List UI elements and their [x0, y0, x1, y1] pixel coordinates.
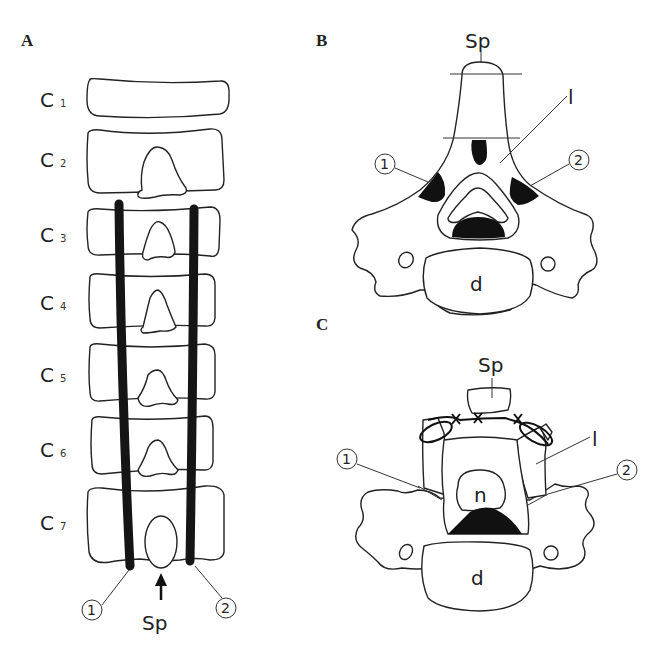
marker-2: 2	[216, 598, 236, 618]
sp-label-b: Sp	[465, 29, 490, 53]
label-c6: C6	[40, 438, 66, 462]
label-c1: C1	[40, 88, 66, 112]
label-c5: C5	[40, 363, 66, 387]
svg-text:2: 2	[60, 158, 66, 169]
l-label-c: l	[592, 427, 598, 451]
svg-text:C: C	[40, 363, 54, 387]
svg-text:2: 2	[622, 462, 631, 478]
d-label-c: d	[471, 566, 484, 590]
n-label-c: n	[474, 483, 487, 507]
svg-text:6: 6	[60, 448, 66, 459]
svg-text:1: 1	[342, 451, 351, 467]
panel-c-letter: C	[316, 315, 328, 334]
vertebra-c7	[87, 486, 224, 568]
label-c7: C7	[40, 511, 66, 535]
svg-text:1: 1	[60, 98, 66, 109]
callout-line-2	[195, 566, 222, 598]
label-c4: C4	[40, 291, 66, 315]
svg-text:4: 4	[60, 301, 66, 312]
foramen-right-b	[541, 257, 555, 271]
svg-text:2: 2	[221, 600, 230, 616]
svg-text:1: 1	[380, 156, 389, 172]
svg-text:C: C	[40, 511, 54, 535]
vertebra-c1	[87, 79, 229, 118]
svg-text:3: 3	[60, 233, 66, 244]
panel-b-letter: B	[316, 31, 327, 50]
callout-line-1	[102, 570, 129, 605]
panel-a: A C1 C2 C3 C4 C5 C6 C7	[21, 31, 236, 635]
panel-a-letter: A	[21, 31, 34, 50]
vertebra-c3	[87, 207, 220, 260]
svg-text:7: 7	[60, 521, 66, 532]
svg-text:1: 1	[87, 602, 96, 618]
svg-text:C: C	[40, 148, 54, 172]
svg-text:C: C	[40, 438, 54, 462]
sp-label-a: Sp	[142, 611, 167, 635]
svg-text:C: C	[40, 223, 54, 247]
foramen-right-c	[544, 546, 558, 560]
label-c3: C3	[40, 223, 66, 247]
svg-text:C: C	[40, 88, 54, 112]
sp-arrow	[155, 573, 167, 600]
spine-diagram-figure: A C1 C2 C3 C4 C5 C6 C7	[0, 0, 658, 648]
spinous-process-c	[468, 388, 511, 413]
spinous-process-c7	[145, 516, 177, 568]
d-label-b: d	[470, 272, 483, 296]
panel-c: C Sp n d l	[316, 315, 637, 611]
marker-1: 1	[82, 600, 102, 620]
marker-1-b: 1	[375, 154, 395, 174]
lamina-left-mark	[418, 172, 445, 202]
panel-b: B Sp d l 1 2	[316, 29, 597, 315]
marker-2-b: 2	[569, 150, 589, 170]
sp-label-c: Sp	[478, 353, 503, 377]
marker-1-c: 1	[337, 449, 357, 469]
label-c2: C2	[40, 148, 66, 172]
l-label-b: l	[568, 85, 574, 109]
vertebra-c2	[87, 129, 224, 198]
svg-text:2: 2	[574, 152, 583, 168]
vertebra-labels: C1 C2 C3 C4 C5 C6 C7	[40, 88, 66, 535]
marker-2-c: 2	[617, 460, 637, 480]
svg-text:5: 5	[60, 373, 66, 384]
rod-right	[190, 209, 194, 561]
svg-text:C: C	[40, 291, 54, 315]
